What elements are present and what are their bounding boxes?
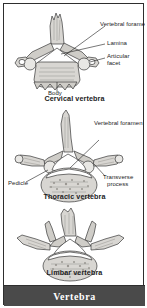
figure-footer-bar: Vertebra xyxy=(4,285,145,306)
label-transverse-process: Transverse xyxy=(103,174,133,181)
vertebra-figure: Vertebral foramen Lamina Articular facet… xyxy=(0,0,147,308)
panel-thoracic-vertebra: Vertebral foramen Pedicle Transverse pro… xyxy=(4,108,145,206)
label-articular-facet: Articular xyxy=(107,53,129,60)
label-vertebral-foramen: Vertebral foramen xyxy=(94,120,143,127)
label-articular-facet-second-line: facet xyxy=(107,60,120,67)
label-pedicle: Pedicle xyxy=(8,180,28,187)
caption-cervical-vertebra: Cervical vertebra xyxy=(4,94,145,103)
panel-cervical-vertebra: Vertebral foramen Lamina Articular facet… xyxy=(4,4,145,108)
label-vertebral-foramen: Vertebral foramen xyxy=(100,21,145,28)
caption-thoracic-vertebra: Thoracic vertebra xyxy=(4,192,145,201)
figure-plate-frame: Vertebral foramen Lamina Articular facet… xyxy=(3,3,144,305)
caption-lumbar-vertebra: Limbar vertebra xyxy=(4,268,145,277)
panel-lumbar-vertebra: Limbar vertebra xyxy=(4,206,145,285)
figure-footer-title: Vertebra xyxy=(53,291,96,302)
label-transverse-process-second-line: process xyxy=(107,181,128,188)
illustration-area: Vertebral foramen Lamina Articular facet… xyxy=(4,4,145,285)
label-lamina: Lamina xyxy=(107,40,127,47)
